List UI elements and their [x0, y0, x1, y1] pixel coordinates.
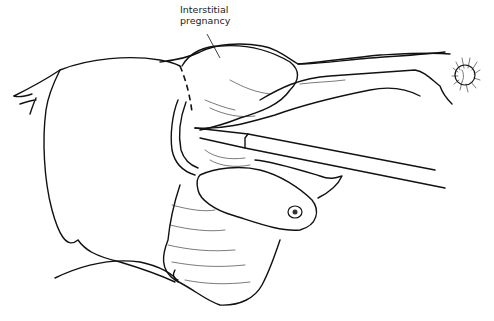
incision-line — [180, 66, 192, 112]
ovary-fold — [255, 160, 342, 198]
label-interstitial-pregnancy: Interstitial pregnancy — [180, 4, 230, 26]
illustration: Interstitial pregnancy — [0, 0, 494, 321]
uterus-left-contour — [44, 70, 175, 282]
tissue-ridges — [168, 80, 345, 284]
lower-structure — [164, 185, 280, 305]
fimbriae — [452, 58, 480, 92]
corpus-luteum-center — [293, 210, 298, 215]
fallopian-tube-upper — [298, 52, 445, 64]
anatomy-drawing — [0, 0, 494, 321]
instrument-shaft-bottom — [200, 138, 445, 188]
label-line-1: Interstitial — [180, 4, 230, 15]
interstitial-bulge — [182, 46, 298, 130]
fallopian-tube-lower — [260, 70, 452, 104]
broad-ligament-left — [14, 94, 36, 114]
uterus-base — [55, 261, 178, 282]
instrument-shaft-top — [195, 128, 435, 170]
label-line-2: pregnancy — [180, 15, 230, 26]
ovary — [197, 168, 317, 231]
instrument-tip — [245, 134, 248, 148]
round-ligament-inner — [180, 102, 198, 168]
